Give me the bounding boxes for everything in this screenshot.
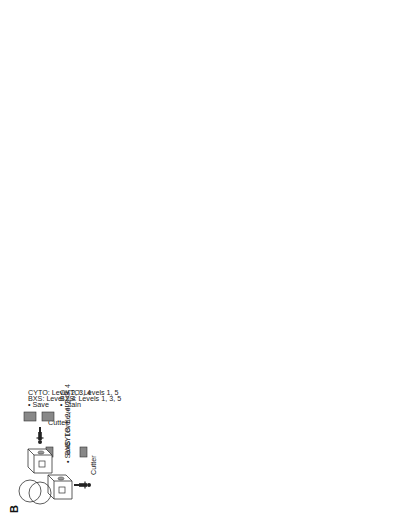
block-cube-icon bbox=[28, 449, 52, 473]
cutter-label: Cutter bbox=[89, 455, 98, 475]
rotated-diagram-stage: B Cutter • Save BXS: Level 2,4 CYTO: Lev… bbox=[0, 0, 406, 521]
save-slide-icon bbox=[24, 412, 36, 421]
cutter-person-icon bbox=[37, 427, 44, 444]
svg-text:CYTO: Levels 1, 5: CYTO: Levels 1, 5 bbox=[60, 388, 119, 397]
stain-slide-icon bbox=[42, 412, 54, 421]
workflow-diagram: B Cutter • Save BXS: Level 2,4 CYTO: Lev… bbox=[0, 0, 406, 521]
tape-icon bbox=[80, 447, 87, 457]
cutter-stations: Cutter • Save BXS: Level 2,4 CYTO: Level… bbox=[24, 388, 121, 504]
panel-label: B bbox=[8, 505, 20, 513]
